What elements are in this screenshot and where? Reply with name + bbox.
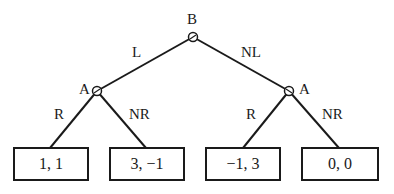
edge-label-right-R: R xyxy=(246,107,256,122)
payoff-value: 3, −1 xyxy=(130,155,163,173)
edge-label-NL: NL xyxy=(241,45,261,60)
player-label-A-left: A xyxy=(79,82,90,97)
payoff-box-1: 1, 1 xyxy=(13,147,89,181)
edge-label-right-NR: NR xyxy=(322,107,343,122)
edge-label-L: L xyxy=(132,45,141,60)
payoff-box-4: 0, 0 xyxy=(301,147,379,181)
edge-label-left-R: R xyxy=(54,107,64,122)
payoff-box-2: 3, −1 xyxy=(109,147,185,181)
payoff-box-3: −1, 3 xyxy=(205,147,281,181)
edge-label-left-NR: NR xyxy=(129,107,150,122)
player-label-B: B xyxy=(187,12,197,27)
payoff-value: 1, 1 xyxy=(39,155,63,173)
edge-L xyxy=(97,37,193,91)
payoff-value: 0, 0 xyxy=(328,155,352,173)
player-label-A-right: A xyxy=(299,82,310,97)
payoff-value: −1, 3 xyxy=(226,155,259,173)
